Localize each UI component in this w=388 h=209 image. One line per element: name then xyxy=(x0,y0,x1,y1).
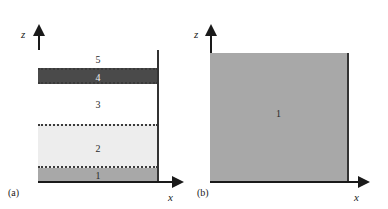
z-axis-arrow-a xyxy=(33,24,45,36)
x-axis-label-b: x xyxy=(354,192,359,203)
x-axis-arrow-b xyxy=(358,176,370,188)
layer-4: 4 xyxy=(38,68,158,84)
x-axis-line-b xyxy=(210,181,360,183)
halfspace-label: 1 xyxy=(210,109,347,119)
z-axis-arrow-b xyxy=(205,24,217,36)
layer-stack: 5 4 3 2 1 xyxy=(38,50,158,181)
halfspace-region: 1 xyxy=(210,53,349,181)
panel-b-caption: (b) xyxy=(197,188,209,198)
z-axis-label-a: z xyxy=(21,29,25,40)
layer-4-label: 4 xyxy=(38,73,158,83)
layer-1-label: 1 xyxy=(38,171,158,181)
panel-a: z x 5 4 3 2 1 (a) xyxy=(0,0,194,209)
layer-3: 3 xyxy=(38,84,158,124)
panel-b: z x 1 (b) xyxy=(194,0,388,209)
layer-3-label: 3 xyxy=(38,100,158,110)
x-axis-line-a xyxy=(38,181,174,183)
layer-1: 1 xyxy=(38,168,158,181)
z-axis-label-b: z xyxy=(194,29,198,40)
layer-5: 5 xyxy=(38,50,158,68)
layer-2-label: 2 xyxy=(38,144,158,154)
layer-5-label: 5 xyxy=(38,55,158,65)
layer-2: 2 xyxy=(38,124,158,168)
figure-layered-models: z x 5 4 3 2 1 (a) xyxy=(0,0,388,209)
model-right-boundary-a xyxy=(157,50,159,181)
x-axis-arrow-a xyxy=(172,176,184,188)
x-axis-label-a: x xyxy=(168,192,173,203)
panel-a-caption: (a) xyxy=(8,188,19,198)
